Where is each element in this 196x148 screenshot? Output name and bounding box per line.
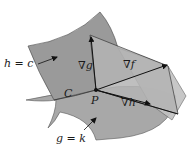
lagrange-diagram: h = c g = k C P ∇g ∇f ∇h	[0, 0, 196, 148]
label-surface-h: h = c	[4, 57, 33, 70]
label-surface-g: g = k	[56, 132, 86, 145]
label-curve-c: C	[64, 87, 73, 100]
label-point-p: P	[90, 94, 99, 107]
label-grad-g: ∇g	[78, 59, 93, 72]
label-grad-h: ∇h	[121, 96, 136, 109]
label-grad-f: ∇f	[123, 58, 137, 71]
point-p	[94, 88, 98, 92]
